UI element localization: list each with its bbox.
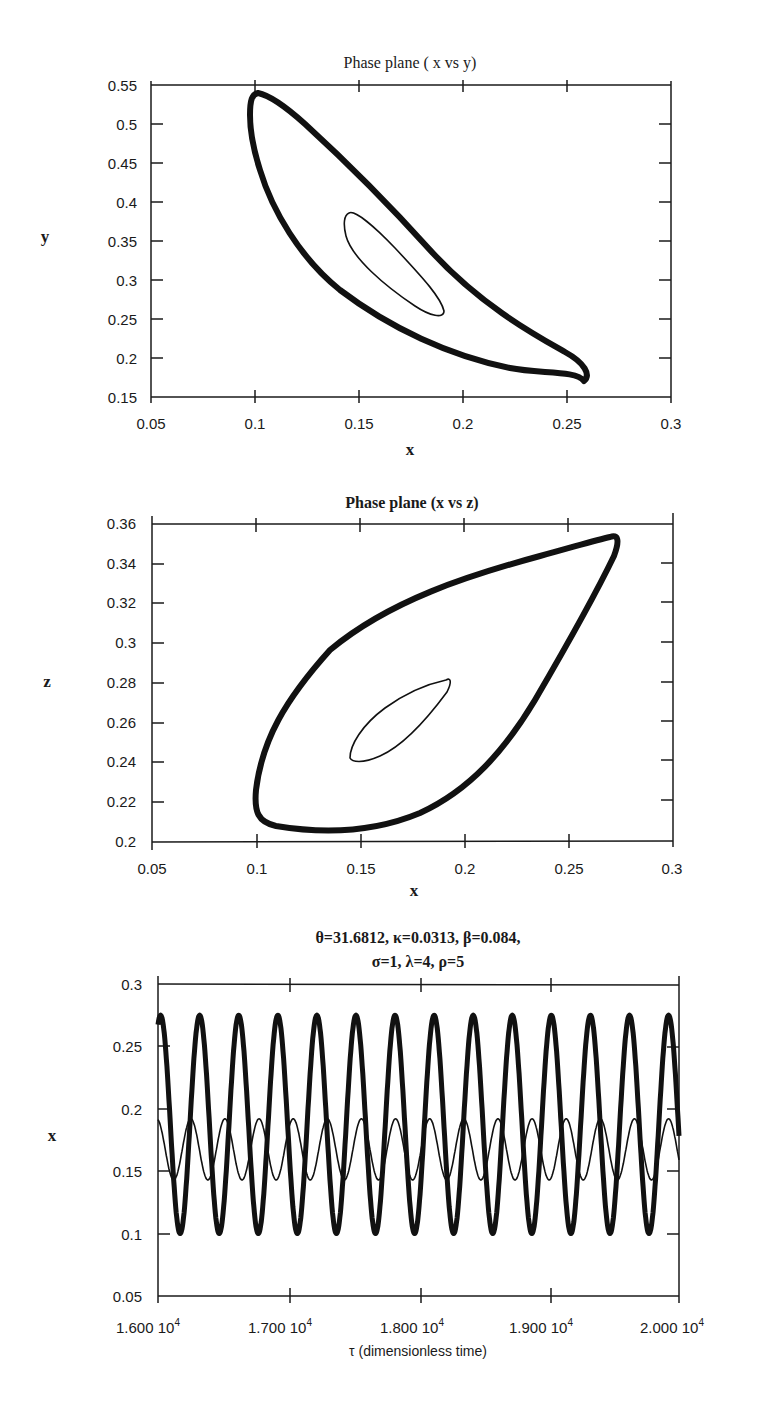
svg-text:0.05: 0.05 <box>137 860 166 877</box>
x-axis-label: x <box>410 881 419 900</box>
y-ticks <box>151 124 671 358</box>
svg-text:0.34: 0.34 <box>107 555 136 572</box>
svg-text:0.05: 0.05 <box>113 1288 142 1305</box>
svg-text:0.1: 0.1 <box>121 1226 142 1243</box>
svg-text:0.15: 0.15 <box>108 389 137 406</box>
svg-text:1.700 104: 1.700 104 <box>248 1317 312 1336</box>
y-axis-label: y <box>41 227 50 246</box>
svg-text:0.4: 0.4 <box>116 194 137 211</box>
svg-text:0.3: 0.3 <box>121 976 142 993</box>
svg-text:0.3: 0.3 <box>661 415 682 432</box>
svg-text:0.15: 0.15 <box>346 860 375 877</box>
svg-text:0.2: 0.2 <box>453 415 474 432</box>
svg-text:0.55: 0.55 <box>108 77 137 94</box>
svg-text:0.26: 0.26 <box>107 714 136 731</box>
x-axis-label: τ (dimensionless time) <box>349 1343 487 1359</box>
svg-text:0.25: 0.25 <box>108 311 137 328</box>
outer-orbit-curve <box>256 536 618 830</box>
figure-canvas: Phase plane ( x vs y) 0.55 0 <box>0 0 759 1410</box>
svg-text:0.2: 0.2 <box>116 350 137 367</box>
svg-text:0.36: 0.36 <box>107 515 136 532</box>
thick-oscillation-curve <box>158 1015 679 1233</box>
svg-text:1.600 104: 1.600 104 <box>116 1317 180 1336</box>
svg-text:0.5: 0.5 <box>116 116 137 133</box>
chart-title: Phase plane (x vs z) <box>345 494 478 512</box>
y-axis-label: z <box>43 672 51 691</box>
y-axis-label: x <box>48 1126 57 1145</box>
inner-orbit-curve <box>344 213 444 316</box>
svg-text:0.45: 0.45 <box>108 155 137 172</box>
chart-title: Phase plane ( x vs y) <box>344 54 477 72</box>
x-tick-labels: 0.05 0.1 0.15 0.2 0.25 0.3 <box>137 860 682 877</box>
x-ticks <box>255 80 567 403</box>
svg-text:0.32: 0.32 <box>107 594 136 611</box>
svg-text:0.25: 0.25 <box>554 860 583 877</box>
time-series-chart: θ=31.6812, κ=0.0313, β=0.084, σ=1, λ=4, … <box>48 929 705 1359</box>
svg-text:0.25: 0.25 <box>552 415 581 432</box>
x-tick-labels: 0.05 0.1 0.15 0.2 0.25 0.3 <box>136 415 681 432</box>
x-axis-label: x <box>406 440 415 459</box>
svg-text:0.35: 0.35 <box>108 233 137 250</box>
chart-title-line2: σ=1, λ=4, ρ=5 <box>372 953 464 971</box>
plot-frame <box>152 513 673 850</box>
phase-plane-xy-chart: Phase plane ( x vs y) 0.55 0 <box>41 54 682 459</box>
svg-text:0.3: 0.3 <box>115 634 136 651</box>
y-tick-labels: 0.55 0.5 0.45 0.4 0.35 0.3 0.25 0.2 0.15 <box>108 77 137 406</box>
svg-text:0.2: 0.2 <box>115 833 136 850</box>
svg-text:0.15: 0.15 <box>113 1163 142 1180</box>
svg-text:0.1: 0.1 <box>245 415 266 432</box>
svg-text:0.28: 0.28 <box>107 674 136 691</box>
x-tick-labels: 1.600 104 1.700 104 1.800 104 1.900 104 … <box>116 1317 704 1336</box>
chart-title-line1: θ=31.6812, κ=0.0313, β=0.084, <box>315 929 520 947</box>
svg-text:0.3: 0.3 <box>116 272 137 289</box>
plot-frame <box>151 81 671 403</box>
svg-text:2.000 104: 2.000 104 <box>640 1317 704 1336</box>
svg-text:0.25: 0.25 <box>113 1038 142 1055</box>
svg-text:0.2: 0.2 <box>455 860 476 877</box>
svg-text:0.2: 0.2 <box>121 1101 142 1118</box>
svg-text:1.800 104: 1.800 104 <box>380 1317 444 1336</box>
y-tick-labels: 0.3 0.25 0.2 0.15 0.1 0.05 <box>113 976 142 1305</box>
phase-plane-xz-chart: Phase plane (x vs z) 0.36 0.34 0.32 <box>43 494 682 900</box>
svg-text:0.24: 0.24 <box>107 753 136 770</box>
outer-orbit-curve <box>250 93 587 381</box>
svg-text:0.15: 0.15 <box>344 415 373 432</box>
svg-text:0.05: 0.05 <box>136 415 165 432</box>
inner-orbit-curve <box>350 679 450 761</box>
svg-text:1.900 104: 1.900 104 <box>509 1317 573 1336</box>
svg-text:0.3: 0.3 <box>662 860 683 877</box>
svg-text:0.22: 0.22 <box>107 793 136 810</box>
svg-text:0.1: 0.1 <box>247 860 268 877</box>
y-tick-labels: 0.36 0.34 0.32 0.3 0.28 0.26 0.24 0.22 0… <box>107 515 136 850</box>
